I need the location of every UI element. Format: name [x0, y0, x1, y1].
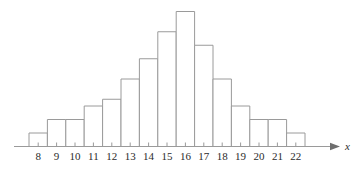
x-axis-tick-label: 10: [70, 150, 82, 162]
histogram-bar: [84, 106, 102, 147]
histogram-bars: [29, 12, 305, 147]
x-axis-tick-label: 18: [217, 150, 229, 162]
x-axis-tick-label: 8: [35, 150, 41, 162]
x-axis-tick-label: 19: [235, 150, 247, 162]
histogram-bar: [103, 99, 121, 146]
histogram-bar: [213, 79, 231, 147]
x-axis-tick-label: 21: [272, 150, 283, 162]
x-axis-tick-label: 17: [198, 150, 210, 162]
histogram-canvas: 8910111213141516171819202122 x: [0, 0, 364, 177]
x-axis-tick-label: 15: [162, 150, 174, 162]
histogram-figure: 8910111213141516171819202122 x: [0, 0, 364, 177]
histogram-bar: [231, 106, 249, 147]
x-axis-tick-label: 14: [143, 150, 155, 162]
histogram-bar: [195, 45, 213, 146]
histogram-bar: [158, 32, 176, 147]
histogram-bar: [47, 120, 65, 147]
x-axis-tick-label: 13: [125, 150, 137, 162]
x-axis-tick-labels: 8910111213141516171819202122: [35, 150, 301, 162]
x-axis-tick-label: 16: [180, 150, 192, 162]
x-axis-tick-label: 20: [254, 150, 266, 162]
histogram-bar: [121, 79, 139, 147]
histogram-bar: [250, 120, 268, 147]
arrow-right-icon: [330, 143, 340, 150]
x-axis-tick-label: 12: [106, 150, 117, 162]
histogram-bar: [268, 120, 286, 147]
histogram-bar: [66, 120, 84, 147]
histogram-bar: [176, 12, 194, 147]
x-axis-tick-label: 11: [88, 150, 99, 162]
x-axis-tick-label: 9: [54, 150, 60, 162]
histogram-bar: [139, 59, 157, 147]
x-axis-tick-label: 22: [290, 150, 301, 162]
x-axis-label: x: [344, 140, 350, 152]
